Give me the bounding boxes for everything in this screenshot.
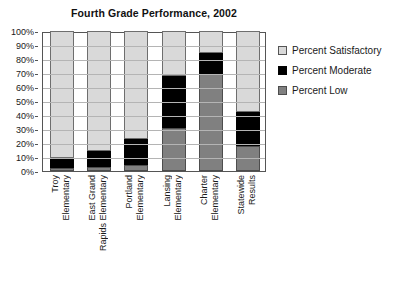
bar-segment[interactable] [199,53,223,74]
legend-label: Percent Low [292,85,348,96]
x-category-label: CharterElementary [191,175,228,279]
x-label-line: Elementary [210,175,221,221]
x-category-label: TroyElementary [42,175,79,279]
legend-item[interactable]: Percent Satisfactory [278,42,412,59]
bar-segment[interactable] [162,128,186,171]
y-tick-mark [35,74,38,75]
bar-segment[interactable] [87,31,111,151]
legend-swatch-icon [278,86,287,95]
gridline [43,88,265,89]
bar-segment[interactable] [162,31,186,76]
x-label-line: Charter [199,175,210,205]
x-label-line: Troy [50,175,61,193]
y-tick-mark [35,32,38,33]
y-tick-mark [35,46,38,47]
y-tick-mark [35,102,38,103]
x-category-label: PortlandElementary [117,175,154,279]
bar-segment[interactable] [199,31,223,53]
y-tick-label: 50% [16,98,34,107]
x-label-line: Rapids Elementary [98,175,109,251]
y-tick-mark [35,130,38,131]
y-tick-label: 20% [16,140,34,149]
plot-area [42,32,266,172]
bar-segment[interactable] [87,151,111,166]
x-label-line: Results [247,175,258,205]
chart-title: Fourth Grade Performance, 2002 [42,7,266,19]
x-axis: TroyElementaryEast GrandRapids Elementar… [42,175,266,280]
y-tick-label: 0% [21,168,34,177]
x-label-line: Elementary [61,175,72,221]
bar-segment[interactable] [50,31,74,158]
y-tick-label: 90% [16,42,34,51]
x-label-line: Portland [124,175,135,209]
gridline [43,60,265,61]
gridline [43,144,265,145]
x-category-lines: CharterElementary [199,175,221,221]
y-tick-label: 80% [16,56,34,65]
y-tick-mark [35,116,38,117]
y-tick-label: 40% [16,112,34,121]
x-category-lines: East GrandRapids Elementary [87,175,109,251]
x-category-label: StatewideResults [229,175,266,279]
y-tick-mark [35,60,38,61]
x-category-label: LansingElementary [154,175,191,279]
y-tick-mark [35,88,38,89]
y-tick-mark [35,144,38,145]
chart-legend: Percent SatisfactoryPercent ModeratePerc… [278,42,412,102]
y-tick-mark [35,172,38,173]
x-label-line: Elementary [173,175,184,221]
bar-segment[interactable] [124,165,148,171]
y-tick-mark [35,158,38,159]
y-tick-label: 10% [16,154,34,163]
gridline [43,74,265,75]
x-category-label: East GrandRapids Elementary [79,175,116,279]
bar-segment[interactable] [87,167,111,171]
legend-label: Percent Moderate [292,65,372,76]
bar-segment[interactable] [50,158,74,168]
legend-swatch-icon [278,66,287,75]
bar-segment[interactable] [124,139,148,166]
y-tick-label: 30% [16,126,34,135]
bar-segment[interactable] [124,31,148,139]
legend-swatch-icon [278,46,287,55]
legend-item[interactable]: Percent Low [278,82,412,99]
gridline [43,130,265,131]
x-label-line: East Grand [87,175,98,221]
x-category-lines: TroyElementary [50,175,72,221]
gridline [43,102,265,103]
x-category-lines: StatewideResults [236,175,258,215]
gridline [43,158,265,159]
y-axis: 0%10%20%30%40%50%60%70%80%90%100% [0,32,38,172]
y-tick-label: 60% [16,84,34,93]
gridline [43,46,265,47]
legend-label: Percent Satisfactory [292,45,381,56]
y-tick-label: 100% [11,28,34,37]
legend-item[interactable]: Percent Moderate [278,62,412,79]
gridline [43,116,265,117]
bar-segment[interactable] [236,31,260,112]
chart-container: Fourth Grade Performance, 2002 0%10%20%3… [0,0,414,282]
x-category-lines: PortlandElementary [124,175,146,221]
y-tick-label: 70% [16,70,34,79]
x-label-line: Elementary [135,175,146,221]
x-label-line: Statewide [236,175,247,215]
x-label-line: Lansing [162,175,173,207]
x-category-lines: LansingElementary [162,175,184,221]
bar-segment[interactable] [50,168,74,171]
